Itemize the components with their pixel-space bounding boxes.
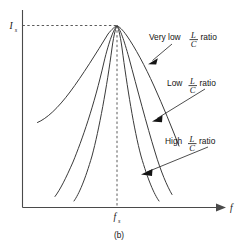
y-axis-tick-label-group: I s xyxy=(9,21,18,33)
curve-very-low-lc-ratio xyxy=(38,26,180,146)
x-axis-tick-label-group: f s xyxy=(114,212,122,224)
resonance-curves-chart: Very low L C ratio Low L C ratio High L … xyxy=(0,0,251,244)
annotation-very-low-lc-ratio: Very low L C ratio xyxy=(149,30,217,49)
annotation-high-suffix: ratio xyxy=(199,136,216,146)
leader-line-very-low xyxy=(153,44,173,61)
annotation-very-low-denominator: C xyxy=(191,39,197,49)
leader-line-high xyxy=(147,147,208,172)
arrowhead-low xyxy=(152,115,163,122)
x-axis-label: f xyxy=(230,203,234,213)
annotation-low-prefix: Low xyxy=(167,78,183,88)
arrowhead-very-low xyxy=(148,58,158,64)
response-curves xyxy=(38,26,180,201)
y-axis-tick-label: I xyxy=(9,21,14,31)
peak-guide-lines xyxy=(23,26,118,208)
figure-container: Very low L C ratio Low L C ratio High L … xyxy=(0,0,251,244)
leader-line-low xyxy=(157,89,205,119)
figure-caption: (b) xyxy=(114,231,124,240)
x-axis-arrowhead xyxy=(216,204,226,212)
y-axis-tick-subscript: s xyxy=(15,26,18,33)
arrowhead-high xyxy=(141,169,153,176)
annotation-high-denominator: C xyxy=(189,143,195,153)
annotation-very-low-prefix: Very low xyxy=(149,32,182,42)
annotation-high-prefix: High xyxy=(165,136,183,146)
x-axis-tick-subscript: s xyxy=(118,217,121,224)
curve-low-lc-ratio xyxy=(55,26,172,197)
annotation-low-suffix: ratio xyxy=(200,78,217,88)
annotation-high-lc-ratio: High L C ratio xyxy=(165,134,216,153)
x-axis-tick-label: f xyxy=(114,212,118,222)
annotation-leaders xyxy=(141,44,208,176)
annotation-low-denominator: C xyxy=(190,85,196,95)
annotation-low-lc-ratio: Low L C ratio xyxy=(167,76,216,95)
annotation-very-low-suffix: ratio xyxy=(201,32,218,42)
